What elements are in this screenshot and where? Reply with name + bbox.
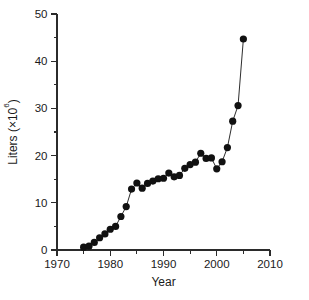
x-tick-label-2000: 2000 xyxy=(204,258,230,270)
data-point-1996 xyxy=(192,159,199,166)
x-axis-title: Year xyxy=(151,275,175,289)
x-tick-label-1980: 1980 xyxy=(97,258,123,270)
x-tick-label-1990: 1990 xyxy=(151,258,177,270)
data-point-1981 xyxy=(112,223,119,230)
data-point-1984 xyxy=(128,186,135,193)
data-point-2004 xyxy=(234,102,241,109)
chart-axis-titles: YearLiters (×106) xyxy=(2,99,176,289)
data-point-1982 xyxy=(117,213,124,220)
y-tick-label-50: 50 xyxy=(35,8,48,20)
y-tick-label-30: 30 xyxy=(35,102,48,114)
chart-axes xyxy=(57,14,270,250)
data-point-1993 xyxy=(176,172,183,179)
chart-figure: 0102030405019701980199020002010 YearLite… xyxy=(0,0,309,300)
data-point-1985 xyxy=(133,179,140,186)
y-axis-title: Liters (×106) xyxy=(2,99,21,164)
data-point-2001 xyxy=(218,158,225,165)
data-point-1990 xyxy=(160,175,167,182)
y-tick-label-20: 20 xyxy=(35,150,48,162)
data-point-2005 xyxy=(240,35,247,42)
y-tick-label-0: 0 xyxy=(41,244,47,256)
chart-tick-labels: 0102030405019701980199020002010 xyxy=(35,8,283,270)
data-point-1983 xyxy=(123,203,130,210)
line-chart: 0102030405019701980199020002010 YearLite… xyxy=(0,0,309,300)
x-tick-label-1970: 1970 xyxy=(44,258,70,270)
y-tick-label-10: 10 xyxy=(35,197,48,209)
data-point-2002 xyxy=(224,144,231,151)
y-tick-label-40: 40 xyxy=(35,55,48,67)
x-tick-label-2010: 2010 xyxy=(257,258,283,270)
data-point-1999 xyxy=(208,154,215,161)
data-series-liters xyxy=(80,35,247,250)
chart-ticks xyxy=(51,14,270,256)
data-point-2000 xyxy=(213,165,220,172)
data-point-2003 xyxy=(229,118,236,125)
series-line-liters xyxy=(84,39,244,247)
data-point-1997 xyxy=(197,150,204,157)
